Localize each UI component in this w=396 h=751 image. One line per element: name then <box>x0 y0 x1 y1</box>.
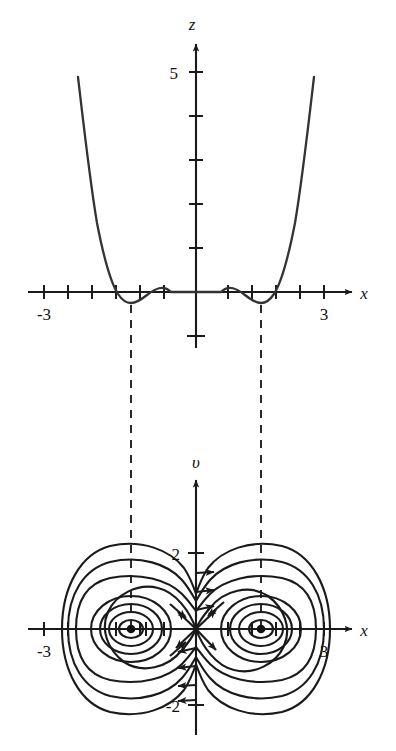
phase-v-tick-2: 2 <box>172 545 181 564</box>
potential-panel: z x 5 -3 3 <box>28 15 368 348</box>
phase-x-tick-3: 3 <box>320 642 329 661</box>
phase-v-tick-neg2: -2 <box>166 697 180 716</box>
potential-x-tick-3: 3 <box>320 305 329 324</box>
potential-y-tick-5: 5 <box>170 64 179 83</box>
flow-arrow-6 <box>178 685 196 686</box>
figure-container: z x 5 -3 3 <box>0 0 396 751</box>
fixed-point-center-right <box>257 625 266 634</box>
potential-x-axis-label: x <box>359 284 368 303</box>
flow-arrow-1 <box>196 572 214 573</box>
flow-arrow-7 <box>178 700 196 701</box>
phase-x-tick-neg3: -3 <box>37 642 51 661</box>
phase-portrait-panel: υ x 2 -2 -3 3 <box>28 453 368 735</box>
phase-x-axis-label: x <box>359 621 368 640</box>
figure-svg: z x 5 -3 3 <box>0 0 396 751</box>
potential-z-axis-label: z <box>188 15 196 34</box>
phase-v-axis-label: υ <box>192 453 200 472</box>
potential-x-tick-neg3: -3 <box>37 305 51 324</box>
fixed-point-center-left <box>127 625 136 634</box>
